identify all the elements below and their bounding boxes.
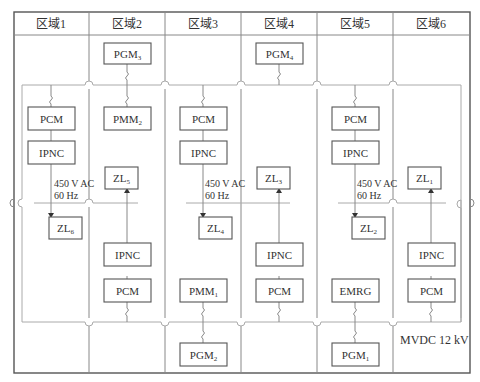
box-zl6: ZL6: [49, 217, 82, 239]
svg-text:PMM2: PMM2: [113, 113, 143, 127]
svg-text:60 Hz: 60 Hz: [205, 190, 230, 201]
box-pcm-zone4: PCM: [256, 279, 303, 302]
box-pgm3: PGM3: [104, 43, 151, 64]
svg-text:450 V AC: 450 V AC: [205, 178, 246, 189]
svg-text:IPNC: IPNC: [191, 147, 216, 159]
svg-text:PGM3: PGM3: [114, 48, 142, 62]
svg-text:PMM1: PMM1: [189, 285, 219, 299]
svg-text:450 V AC: 450 V AC: [54, 178, 95, 189]
box-pcm-zone5: PCM: [332, 107, 379, 130]
box-pcm-zone1: PCM: [28, 107, 75, 130]
box-pgm2: PGM2: [180, 343, 227, 366]
svg-text:IPNC: IPNC: [39, 147, 64, 159]
svg-text:IPNC: IPNC: [115, 249, 140, 261]
zone-header-5: 区域5: [340, 17, 370, 31]
ac-bus-label-zone3: 450 V AC 60 Hz: [205, 178, 246, 201]
zone-header-2: 区域2: [112, 17, 142, 31]
box-zl1: ZL1: [408, 167, 441, 189]
ac-bus-label-zone1: 450 V AC 60 Hz: [54, 178, 95, 201]
svg-text:PCM: PCM: [116, 285, 139, 297]
box-zl5: ZL5: [105, 167, 138, 189]
box-ipnc-zone3: IPNC: [180, 141, 227, 164]
mvdc-bus-left: [18, 85, 22, 322]
svg-text:60 Hz: 60 Hz: [357, 190, 382, 201]
svg-text:PGM2: PGM2: [190, 349, 218, 363]
ac-bus-zone56: [338, 199, 446, 203]
box-ipnc-zone2: IPNC: [104, 243, 151, 266]
zone-header-1: 区域1: [36, 17, 66, 31]
box-pgm4: PGM4: [256, 43, 303, 64]
svg-text:PGM1: PGM1: [342, 349, 370, 363]
box-pcm-zone2: PCM: [104, 279, 151, 302]
box-zl3: ZL3: [257, 167, 290, 189]
box-ipnc-zone4: IPNC: [256, 243, 303, 266]
zone-dividers: [89, 12, 393, 373]
box-pgm1: PGM1: [332, 343, 379, 366]
box-ipnc-zone5: IPNC: [332, 141, 379, 164]
mvdc-label: MVDC 12 kV: [400, 333, 469, 347]
svg-text:PCM: PCM: [420, 285, 443, 297]
svg-text:IPNC: IPNC: [343, 147, 368, 159]
zone-header-4: 区域4: [264, 17, 294, 31]
box-pcm-zone3: PCM: [180, 107, 227, 130]
svg-text:PCM: PCM: [40, 113, 63, 125]
svg-text:450 V AC: 450 V AC: [357, 178, 398, 189]
box-zl4: ZL4: [199, 217, 232, 239]
zone-header-3: 区域3: [188, 17, 218, 31]
box-zl2: ZL2: [352, 217, 385, 239]
svg-text:IPNC: IPNC: [419, 249, 444, 261]
box-ipnc-zone6: IPNC: [408, 243, 455, 266]
zone-header-6: 区域6: [416, 17, 446, 31]
ac-bus-label-zone5: 450 V AC 60 Hz: [357, 178, 398, 201]
box-ipnc-zone1: IPNC: [28, 141, 75, 164]
diagram-frame: [14, 12, 470, 373]
box-pmm2: PMM2: [104, 107, 151, 130]
box-pmm1: PMM1: [180, 279, 227, 302]
svg-text:PCM: PCM: [344, 113, 367, 125]
svg-text:IPNC: IPNC: [267, 249, 292, 261]
svg-text:PGM4: PGM4: [266, 48, 294, 62]
ac-bus-zone12: [34, 199, 138, 203]
svg-text:EMRG: EMRG: [340, 285, 372, 297]
box-emrg: EMRG: [332, 279, 379, 302]
box-pcm-zone6: PCM: [408, 279, 455, 302]
svg-text:PCM: PCM: [192, 113, 215, 125]
svg-text:PCM: PCM: [268, 285, 291, 297]
zonal-power-system-diagram: 区域1 区域2 区域3 区域4 区域5 区域6: [0, 0, 480, 382]
svg-text:60 Hz: 60 Hz: [54, 190, 79, 201]
